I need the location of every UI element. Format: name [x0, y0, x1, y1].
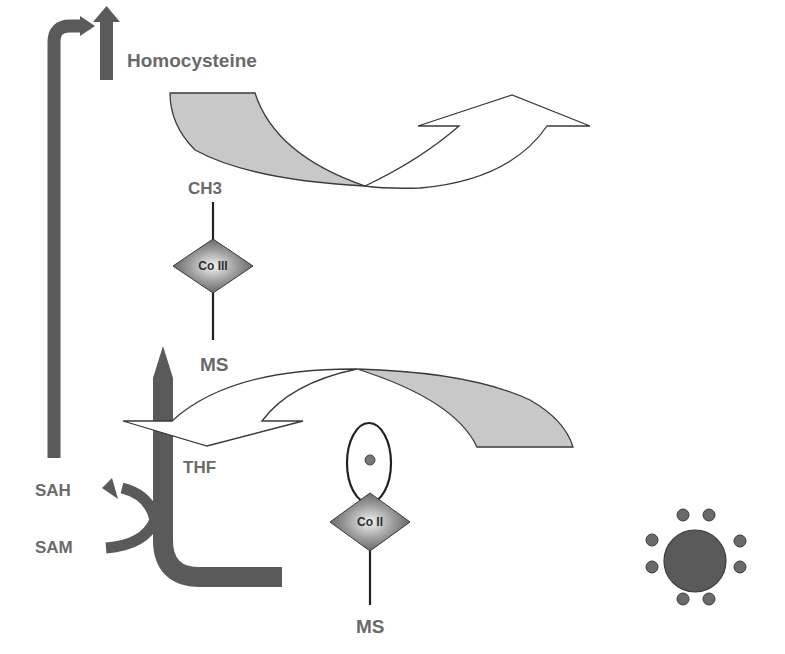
ms-top-label: MS: [200, 354, 229, 375]
thf-label: THF: [183, 458, 216, 477]
electron-dot: [677, 593, 689, 605]
electron-dot: [703, 509, 715, 521]
ms-bottom-label: MS: [356, 616, 385, 637]
nucleus-circle: [664, 530, 726, 592]
electron-dot: [646, 534, 658, 546]
homocysteine-label: Homocysteine: [127, 50, 257, 71]
electron-dot: [734, 535, 746, 547]
electron-dot: [646, 561, 658, 573]
homocysteine-up-arrow: [93, 6, 120, 80]
diagram-canvas: Homocysteine CH3 Co III MS SAH SAM THF C…: [0, 0, 785, 654]
lower-curved-arrow: [123, 369, 573, 447]
electron-cluster: [646, 509, 746, 605]
co3-label: Co III: [198, 259, 227, 273]
electron-dot: [677, 509, 689, 521]
sah-label: SAH: [35, 481, 71, 500]
electron-dot: [703, 593, 715, 605]
electron-dot: [734, 561, 746, 573]
sah-to-homocysteine-arrow: [54, 16, 95, 458]
radical-electron-dot: [365, 455, 375, 465]
ch3-label: CH3: [188, 179, 222, 198]
upper-curved-arrow: [170, 93, 590, 188]
sam-to-sah-arrow: [102, 478, 155, 548]
co2-label: Co II: [357, 515, 383, 529]
sam-label: SAM: [35, 538, 73, 557]
